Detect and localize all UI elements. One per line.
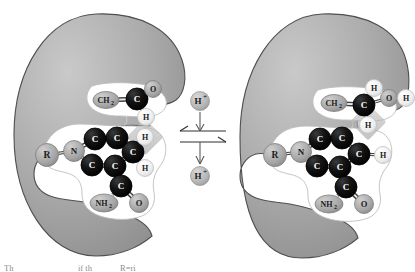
atom-label: N xyxy=(298,147,305,157)
caption-fragment-3: R=ri xyxy=(120,263,136,272)
atom-O-R-O1: O xyxy=(355,195,374,214)
atom-label: CH xyxy=(98,96,111,105)
atom-label: O xyxy=(386,94,392,103)
atom-H-L-H2: H xyxy=(137,160,154,177)
atom-label: O xyxy=(136,198,143,208)
atom-label: H xyxy=(143,113,150,122)
atom-NH-L-NH2: NH2 xyxy=(90,194,118,212)
atom-label: C xyxy=(343,182,350,192)
atom-label: O xyxy=(150,85,156,94)
atom-R-R-R: R xyxy=(264,144,287,167)
atom-O-L-O1: O xyxy=(130,194,149,213)
atom-H-R-H4: H xyxy=(360,117,377,134)
atom-NH-R-NH2: NH2 xyxy=(315,195,343,213)
equilibrium-arrows xyxy=(180,112,226,164)
caption-fragment-1: Th xyxy=(4,263,14,272)
enzyme-equilibrium-diagram: RNCCCCCCNH2OHHCH2COH RNCCCCCCNH2OHCH2CHO… xyxy=(0,0,415,272)
atom-H-L-H1: H xyxy=(137,129,154,146)
h-plus-out-charge: + xyxy=(203,168,207,176)
h-plus-out-label: H xyxy=(194,171,201,181)
atom-N-L-N: N xyxy=(64,141,85,162)
atom-label: C xyxy=(118,181,125,191)
atom-label: H xyxy=(142,133,149,142)
atom-H-R-H1: H xyxy=(375,147,392,164)
h-plus-in-label: H xyxy=(194,96,201,106)
h-plus-in-charge: + xyxy=(203,93,207,101)
atom-label: H xyxy=(142,164,149,173)
atom-C-R-C4: C xyxy=(329,156,351,178)
h-plus-in: H + xyxy=(191,92,210,111)
atom-label: C xyxy=(317,134,324,144)
atom-C-R-C2: C xyxy=(331,127,353,149)
atom-label: O xyxy=(361,199,368,209)
atom-O-R-O2: O xyxy=(381,90,398,107)
atom-label: C xyxy=(92,134,99,144)
atom-label: C xyxy=(356,149,363,159)
atom-C-L-C6: C xyxy=(110,175,132,197)
atom-label: C xyxy=(361,100,368,110)
atom-C-L-C5: C xyxy=(81,154,103,176)
caption-truncated: Th if th R=ri xyxy=(4,263,136,272)
atom-label: C xyxy=(134,94,141,104)
h-plus-out: H + xyxy=(191,167,210,186)
atom-H-R-H2: H xyxy=(366,80,383,97)
atom-subscript: 2 xyxy=(109,203,112,209)
atom-label: CH xyxy=(326,99,339,108)
atom-C-R-C7: C xyxy=(353,94,375,116)
atom-C-R-C1: C xyxy=(309,128,331,150)
atom-label: NH xyxy=(321,200,334,209)
atom-label: C xyxy=(337,162,344,172)
atom-label: C xyxy=(112,161,119,171)
atom-label: H xyxy=(380,151,387,160)
atom-label: H xyxy=(403,94,410,103)
atom-label: N xyxy=(71,146,78,156)
atom-R-L-R: R xyxy=(36,144,59,167)
atom-CH-R-CH2: CH2 xyxy=(321,95,347,112)
atom-label: C xyxy=(130,147,137,157)
atom-label: C xyxy=(339,133,346,143)
atom-C-L-C1: C xyxy=(84,128,106,150)
atom-label: C xyxy=(89,160,96,170)
atom-label: H xyxy=(371,84,378,93)
atom-H-L-H3: H xyxy=(138,109,155,126)
atom-label: R xyxy=(44,150,51,160)
figure-canvas: RNCCCCCCNH2OHHCH2COH RNCCCCCCNH2OHCH2CHO… xyxy=(0,0,415,272)
atom-label: C xyxy=(114,133,121,143)
caption-fragment-2: if th xyxy=(78,263,93,272)
atom-H-R-H3: H xyxy=(398,90,415,107)
atom-C-R-C6: C xyxy=(335,176,357,198)
atom-label: C xyxy=(314,161,321,171)
atom-subscript: 2 xyxy=(334,204,337,210)
atom-subscript: 2 xyxy=(111,100,114,106)
atom-CH-L-CH2: CH2 xyxy=(93,92,119,109)
atom-C-R-C5: C xyxy=(306,155,328,177)
atom-label: NH xyxy=(96,199,109,208)
atom-label: R xyxy=(272,150,279,160)
atom-C-L-C4: C xyxy=(104,155,126,177)
atom-O-L-O2: O xyxy=(145,81,162,98)
atom-label: H xyxy=(365,121,372,130)
atom-C-R-C3: C xyxy=(348,143,370,165)
atom-subscript: 2 xyxy=(339,103,342,109)
